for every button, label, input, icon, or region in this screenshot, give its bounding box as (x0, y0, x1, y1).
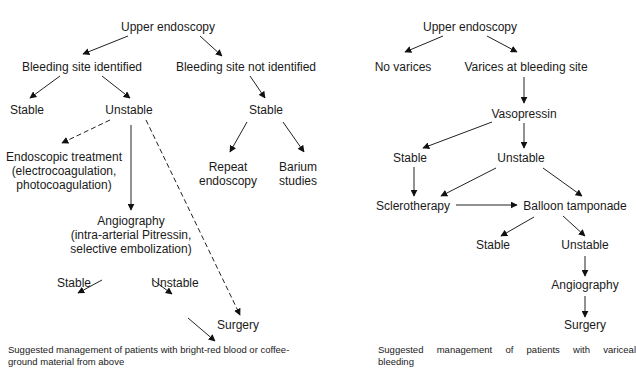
left-node-stable-2: Stable (249, 103, 283, 117)
left-node-endoscopic-treatment: Endoscopic treatment (electrocoagulation… (6, 150, 122, 192)
left-caption-line-1: Suggested management of patients with br… (8, 344, 328, 356)
left-node-surgery: Surgery (217, 318, 259, 332)
left-node-repeat-endoscopy: Repeat endoscopy (199, 160, 257, 188)
right-node-varices-at-bleeding-site: Varices at bleeding site (464, 60, 587, 74)
left-node-upper-endoscopy: Upper endoscopy (121, 20, 215, 34)
left-node-stable-3: Stable (57, 276, 91, 290)
left-node-unstable-1: Unstable (105, 103, 152, 117)
barium-studies-line-1: Barium (279, 160, 317, 174)
angiography-line-1: Angiography (70, 214, 191, 228)
right-node-stable-1: Stable (393, 151, 427, 165)
left-node-angiography: Angiography (intra-arterial Pitressin, s… (70, 214, 191, 256)
right-node-no-varices: No varices (375, 60, 432, 74)
left-node-bleeding-site-identified: Bleeding site identified (22, 60, 142, 74)
right-caption-line-1: Suggested management of patients with va… (378, 344, 636, 356)
right-caption-line-2: bleeding (378, 356, 636, 368)
endoscopic-treatment-line-3: photocoagulation) (6, 178, 122, 192)
left-node-bleeding-site-not-identified: Bleeding site not identified (176, 60, 316, 74)
right-node-sclerotherapy: Sclerotherapy (376, 199, 450, 213)
right-caption: Suggested management of patients with va… (378, 344, 636, 368)
right-node-surgery: Surgery (564, 318, 606, 332)
right-node-vasopressin: Vasopressin (491, 107, 556, 121)
barium-studies-line-2: studies (279, 174, 317, 188)
left-caption: Suggested management of patients with br… (8, 344, 328, 368)
left-node-barium-studies: Barium studies (279, 160, 317, 188)
repeat-endoscopy-line-2: endoscopy (199, 174, 257, 188)
right-node-balloon-tamponade: Balloon tamponade (523, 199, 626, 213)
left-node-stable-1: Stable (10, 103, 44, 117)
left-caption-line-2: ground material from above (8, 356, 328, 368)
endoscopic-treatment-line-2: (electrocoagulation, (6, 164, 122, 178)
repeat-endoscopy-line-1: Repeat (199, 160, 257, 174)
endoscopic-treatment-line-1: Endoscopic treatment (6, 150, 122, 164)
left-node-unstable-3: Unstable (151, 276, 198, 290)
right-node-unstable-2: Unstable (561, 238, 608, 252)
right-node-upper-endoscopy: Upper endoscopy (423, 20, 517, 34)
right-node-angiography: Angiography (551, 278, 618, 292)
right-node-unstable-1: Unstable (497, 151, 544, 165)
right-node-stable-2: Stable (476, 238, 510, 252)
angiography-line-3: selective embolization) (70, 242, 191, 256)
angiography-line-2: (intra-arterial Pitressin, (70, 228, 191, 242)
